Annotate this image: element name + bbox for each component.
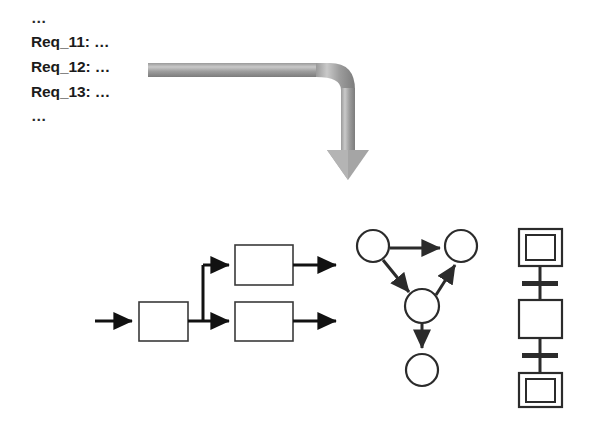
activity-action-middle (519, 300, 562, 338)
activity-transition-upper (522, 281, 558, 286)
activity-place-start-inner (526, 235, 555, 260)
activity-place-end-inner (526, 379, 555, 402)
activity-transition-lower (522, 353, 558, 358)
diagram-canvas: … Req_11: … Req_12: … Req_13: … … (0, 0, 596, 437)
activity-net-diagram (0, 0, 596, 437)
